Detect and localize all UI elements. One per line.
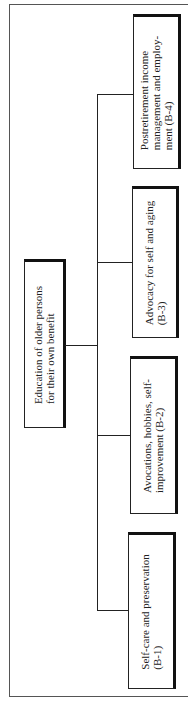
root-line-1: Education of older persons (32, 285, 44, 403)
root-line-2: for their own benefit (44, 285, 56, 403)
node-b1-text: Self-care and preservation (B-1) (139, 554, 163, 669)
node-b2-line-2: improvement (B-2) (153, 379, 165, 493)
connector-root-to-trunk (65, 345, 98, 346)
node-b4-line-1: Postretirement income (138, 35, 150, 149)
root-node: Education of older persons for their own… (24, 259, 66, 428)
node-b3-line-1: Advocacy for self and aging (143, 201, 155, 326)
node-b3-text: Advocacy for self and aging (B-3) (143, 201, 167, 326)
connector-trunk (97, 94, 98, 611)
node-b2-line-1: Avocations, hobbies, self- (141, 379, 153, 493)
connector-to-b3 (97, 262, 133, 263)
node-b1-line-2: (B-1) (151, 554, 163, 669)
node-b4-line-2: management and employ- (150, 35, 162, 149)
connector-to-b1 (97, 610, 129, 611)
node-b3: Advocacy for self and aging (B-3) (132, 186, 179, 338)
node-b2: Avocations, hobbies, self- improvement (… (130, 356, 178, 514)
node-b1-line-1: Self-care and preservation (139, 554, 151, 669)
node-b4-text: Postretirement income management and emp… (138, 35, 174, 149)
connector-to-b4 (97, 94, 133, 95)
node-b1: Self-care and preservation (B-1) (128, 532, 176, 689)
node-b4: Postretirement income management and emp… (133, 14, 181, 169)
node-b4-line-3: ment (B-4) (162, 35, 174, 149)
root-node-text: Education of older persons for their own… (32, 285, 56, 403)
node-b2-text: Avocations, hobbies, self- improvement (… (141, 379, 165, 493)
connector-to-b2 (97, 435, 133, 436)
node-b3-line-2: (B-3) (155, 201, 167, 326)
